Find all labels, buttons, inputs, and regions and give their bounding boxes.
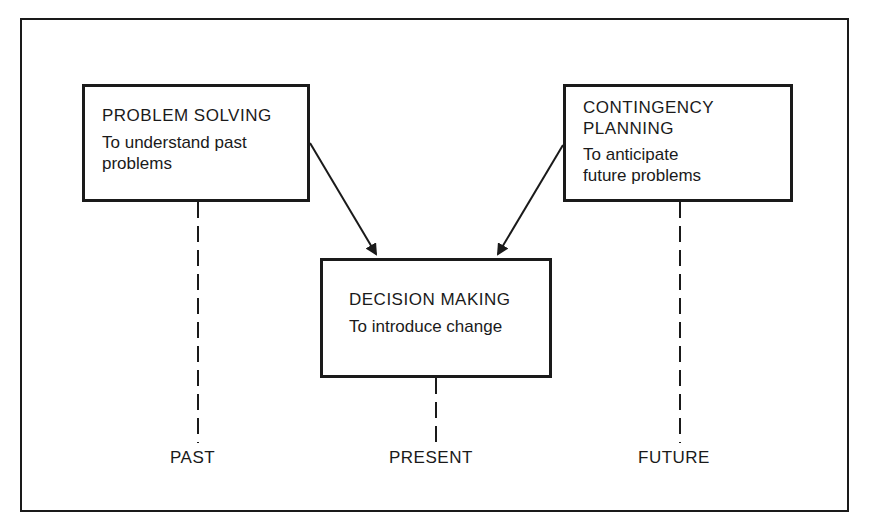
problem-solving-description: To understand past problems: [102, 132, 307, 174]
timeline-label-present: PRESENT: [389, 448, 473, 468]
decision-making-title: DECISION MAKING: [349, 289, 549, 310]
timeline-label-past: PAST: [170, 448, 215, 468]
problem-solving-box: PROBLEM SOLVING To understand past probl…: [82, 84, 310, 202]
contingency-planning-title: CONTINGENCY PLANNING: [583, 97, 790, 139]
decision-making-box: DECISION MAKING To introduce change: [320, 258, 552, 378]
decision-making-description: To introduce change: [349, 316, 549, 337]
contingency-planning-description: To anticipate future problems: [583, 144, 790, 186]
timeline-label-future: FUTURE: [638, 448, 710, 468]
problem-solving-title: PROBLEM SOLVING: [102, 105, 307, 126]
arrow-contingency-to-decision: [498, 145, 563, 254]
contingency-planning-box: CONTINGENCY PLANNING To anticipate futur…: [563, 84, 793, 202]
arrow-problem-to-decision: [310, 143, 376, 254]
